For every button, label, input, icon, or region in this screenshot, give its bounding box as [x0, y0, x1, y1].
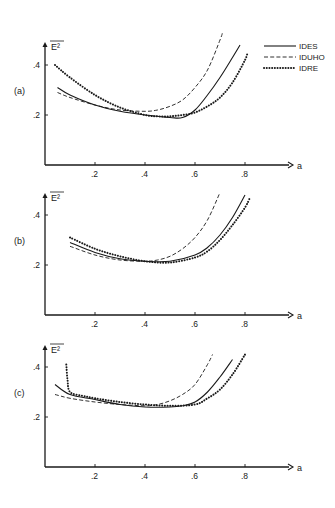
y-tick-label: .4: [33, 60, 40, 70]
figure: aE²(a).2.4.6.8.2.4aE²(b).2.4.6.8.2.4aE²(…: [0, 0, 335, 508]
legend-label-ides: IDES: [299, 42, 318, 51]
y-tick-label: .2: [33, 260, 40, 270]
x-tick-label: .6: [191, 471, 198, 481]
series-ides: [58, 45, 241, 118]
y-arrow-icon: [43, 42, 48, 47]
legend-label-iduho: IDUHO: [299, 53, 325, 62]
x-tick-label: .6: [191, 319, 198, 329]
series-ides: [70, 195, 245, 262]
x-axis-label: a: [297, 311, 302, 321]
x-tick-label: .4: [141, 471, 148, 481]
x-axis-label: a: [297, 463, 302, 473]
panel-c: aE²(c).2.4.6.8.2.4: [14, 344, 302, 481]
x-tick-label: .8: [241, 169, 248, 179]
y-arrow-icon: [43, 193, 48, 198]
x-tick-label: .6: [191, 169, 198, 179]
y-axis-label: E²: [51, 193, 60, 203]
panel-b: aE²(b).2.4.6.8.2.4: [14, 192, 302, 329]
y-arrow-icon: [43, 345, 48, 350]
series-idre: [55, 53, 248, 117]
legend-label-idre: IDRE: [299, 64, 318, 73]
x-tick-label: .8: [241, 471, 248, 481]
y-tick-label: .2: [33, 412, 40, 422]
x-tick-label: .4: [141, 169, 148, 179]
panel-label: (c): [14, 388, 25, 398]
panel-a: aE²(a).2.4.6.8.2.4: [14, 33, 302, 180]
y-tick-label: .4: [33, 362, 40, 372]
series-iduho: [58, 33, 223, 112]
y-tick-label: .4: [33, 210, 40, 220]
x-tick-label: .2: [91, 169, 98, 179]
y-tick-label: .2: [33, 110, 40, 120]
x-tick-label: .2: [91, 319, 98, 329]
y-axis-label: E²: [51, 345, 60, 355]
series-iduho: [55, 355, 213, 406]
x-axis-label: a: [297, 161, 302, 171]
y-axis-label: E²: [51, 42, 60, 52]
legend: IDESIDUHOIDRE: [264, 42, 325, 73]
series-iduho: [70, 193, 220, 262]
panel-label: (a): [14, 86, 25, 96]
x-tick-label: .2: [91, 471, 98, 481]
panel-label: (b): [14, 236, 25, 246]
x-tick-label: .8: [241, 319, 248, 329]
x-tick-label: .4: [141, 319, 148, 329]
